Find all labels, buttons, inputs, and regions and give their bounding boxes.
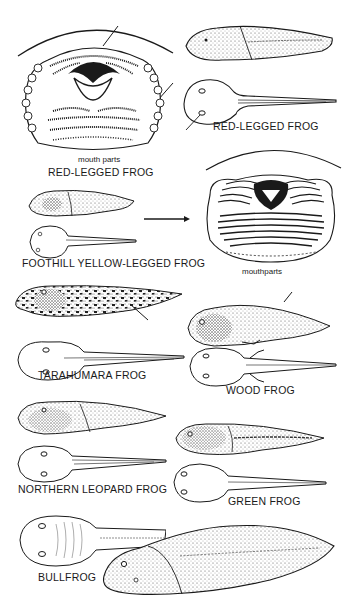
bullfrog-tadpole-lateral [100,522,338,598]
northern-leopard-frog-tadpole-dorsal [14,440,170,486]
tarahumara-frog-label: TARAHUMARA FROG [38,369,146,381]
foothill-yellow-legged-frog-tadpole-dorsal [26,222,140,262]
green-frog-tadpole-lateral [172,418,328,460]
mouth-parts-caption: mouth parts [78,155,120,164]
red-legged-frog-tadpole-lateral [182,16,342,66]
red-legged-frog-label-1: RED-LEGGED FROG [48,166,154,178]
northern-leopard-frog-tadpole-lateral [14,398,170,438]
red-legged-frog-label-2: RED-LEGGED FROG [213,120,319,132]
northern-leopard-frog-label: NORTHERN LEOPARD FROG [18,483,167,495]
wood-frog-label: WOOD FROG [226,384,295,396]
red-legged-frog-mouthparts-illustration [8,8,178,158]
bullfrog-label: BULLFROG [38,571,96,583]
mouthparts-caption: mouthparts [242,267,282,276]
green-frog-label: GREEN FROG [228,495,301,507]
tarahumara-frog-tadpole-lateral [12,282,184,340]
arrow-to-mouthparts [144,214,190,224]
foothill-yellow-legged-frog-tadpole-lateral [26,186,138,220]
wood-frog-tadpole-lateral [184,292,340,350]
foothill-yellow-legged-frog-mouthparts-illustration [196,140,342,265]
foothill-yellow-legged-frog-label: FOOTHILL YELLOW-LEGGED FROG [22,257,205,269]
